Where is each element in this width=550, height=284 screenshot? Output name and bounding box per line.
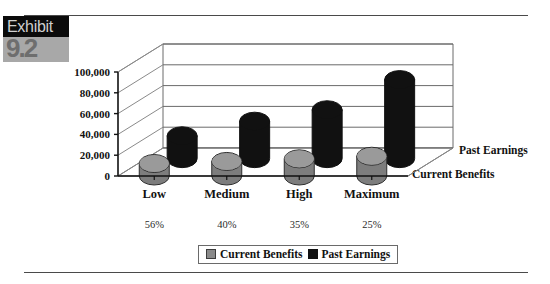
y-axis-tick-label: 40,000 [80,128,111,140]
x-axis-percent-label: 40% [217,219,237,230]
bar-current-benefits [212,152,242,185]
legend-swatch-past-earnings [308,249,318,259]
depth-axis-label-front: Current Benefits [412,168,495,180]
bar-past-earnings [385,71,415,168]
y-axis-tick-label: 0 [105,170,111,182]
chart-legend: Current Benefits Past Earnings [198,245,398,264]
x-axis-percent-label: 56% [145,219,165,230]
y-axis-tick-label: 100,000 [74,66,110,78]
legend-label-past-earnings: Past Earnings [322,248,391,260]
legend-item-past-earnings: Past Earnings [308,248,391,260]
y-axis-tick-label: 80,000 [80,87,111,99]
legend-item-current-benefits: Current Benefits [206,248,303,260]
exhibit-number: 9.2 [6,35,36,61]
bottom-divider-rule [24,272,528,273]
x-axis-category-label: Low [142,187,166,201]
x-axis-percent-annotations: 56%40%35%25% [145,219,382,230]
x-axis-category-label: Maximum [344,187,400,201]
x-axis-category-label: High [286,187,312,201]
y-axis-tick-label: 60,000 [80,108,111,120]
chart-canvas: 020,00040,00060,00080,000100,000 LowMedi… [60,20,535,260]
bar-current-benefits [139,155,169,185]
x-axis-category-label: Medium [204,187,250,201]
y-axis-tick-label: 20,000 [80,149,111,161]
bar-chart: 020,00040,00060,00080,000100,000 LowMedi… [60,20,535,260]
legend-label-current-benefits: Current Benefits [220,248,303,260]
x-axis-percent-label: 25% [362,219,382,230]
top-divider-rule [24,15,528,16]
bar-past-earnings [167,127,197,168]
bar-past-earnings [312,101,342,168]
x-axis-percent-label: 35% [290,219,310,230]
depth-axis-label-back: Past Earnings [459,144,528,157]
x-axis-category-labels: LowMediumHighMaximum [142,187,400,201]
legend-swatch-current-benefits [206,249,216,259]
y-axis-tick-labels: 020,00040,00060,00080,000100,000 [74,66,110,182]
bar-past-earnings [240,112,270,167]
